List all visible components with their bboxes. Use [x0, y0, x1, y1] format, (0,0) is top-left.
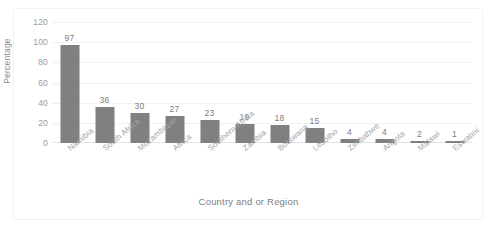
y-axis-title: Percentage: [2, 38, 12, 83]
plot-area: 97363027231918154421: [52, 22, 472, 143]
y-tick-label: 20: [38, 118, 48, 128]
bar-value-label: 36: [100, 95, 110, 105]
bar-slot: 1: [437, 22, 472, 143]
y-tick-label: 120: [33, 17, 48, 27]
x-axis-title: Country and or Region: [0, 196, 497, 207]
bar-value-label: 97: [65, 33, 75, 43]
bar-slot: 36: [87, 22, 122, 143]
bar-slot: 23: [192, 22, 227, 143]
bar-value-label: 15: [310, 116, 320, 126]
y-tick-label: 40: [38, 98, 48, 108]
bar-value-label: 27: [170, 104, 180, 114]
bar-value-label: 18: [275, 113, 285, 123]
y-axis-tick-labels: 120 100 80 60 40 20 0: [26, 22, 48, 143]
bar-value-label: 4: [382, 127, 387, 137]
bar-value-label: 4: [347, 127, 352, 137]
bar-slot: 2: [402, 22, 437, 143]
y-tick-label: 60: [38, 78, 48, 88]
bar-value-label: 23: [205, 108, 215, 118]
y-tick-label: 100: [33, 37, 48, 47]
x-axis-category-labels: NamibiaSouth AfricaMozambiqueAfricaSouth…: [52, 146, 472, 192]
bar-slot: 18: [262, 22, 297, 143]
bar-slot: 97: [52, 22, 87, 143]
y-tick-label: 0: [43, 138, 48, 148]
bar-slot: 4: [332, 22, 367, 143]
bar-value-label: 30: [135, 101, 145, 111]
bar-chart: Percentage 120 100 80 60 40 20 0 9736302…: [0, 0, 497, 228]
bar[interactable]: [60, 45, 79, 143]
bar-value-label: 1: [452, 129, 457, 139]
y-tick-label: 80: [38, 57, 48, 67]
bar-value-label: 2: [417, 129, 422, 139]
